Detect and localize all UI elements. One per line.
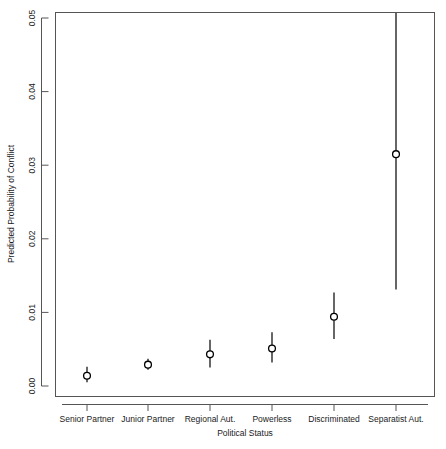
data-point-marker (145, 361, 152, 368)
error-bar-chart: 0.000.010.020.030.040.05 Senior PartnerJ… (0, 0, 446, 449)
y-tick-label: 0.00 (27, 377, 37, 394)
chart-background (0, 0, 446, 449)
x-category-label: Discriminated (308, 414, 360, 424)
data-point-marker (84, 372, 91, 379)
data-point-marker (331, 313, 338, 320)
y-axis-title: Predicted Probability of Conflict (6, 144, 16, 263)
x-category-label: Regional Aut. (185, 414, 236, 424)
y-tick-label: 0.02 (27, 230, 37, 247)
data-point-marker (269, 345, 276, 352)
y-tick-label: 0.01 (27, 304, 37, 321)
x-category-label: Powerless (252, 414, 291, 424)
x-category-label: Separatist Aut. (368, 414, 423, 424)
chart-figure: 0.000.010.020.030.040.05 Senior PartnerJ… (0, 0, 446, 449)
data-point-marker (207, 351, 214, 358)
y-tick-label: 0.03 (27, 157, 37, 174)
x-category-label: Junior Partner (121, 414, 175, 424)
y-tick-label: 0.05 (27, 9, 37, 26)
data-point-marker (393, 151, 400, 158)
x-axis-title: Political Status (217, 428, 273, 438)
y-tick-label: 0.04 (27, 83, 37, 100)
x-category-label: Senior Partner (60, 414, 115, 424)
